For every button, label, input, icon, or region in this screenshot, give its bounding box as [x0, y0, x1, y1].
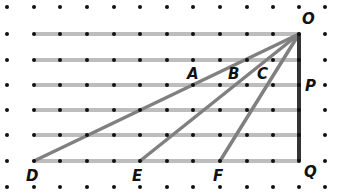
grid-dot — [245, 5, 249, 9]
label-o: O — [302, 10, 315, 28]
grid-dot — [5, 5, 9, 9]
grid-dot — [112, 5, 116, 9]
grid-dot — [271, 108, 275, 112]
grid-dot — [5, 32, 9, 36]
label-q: Q — [304, 163, 317, 181]
grid-dot — [271, 58, 275, 62]
grid-dot — [58, 32, 62, 36]
grid-dot — [138, 32, 142, 36]
grid-dot — [165, 58, 169, 62]
grid-dot — [32, 58, 36, 62]
grid-dot — [165, 159, 169, 163]
grid-dot — [112, 133, 116, 137]
grid-dot — [58, 108, 62, 112]
label-b: B — [228, 65, 239, 83]
grid-dot — [191, 32, 195, 36]
grid-dot — [165, 32, 169, 36]
grid-dot — [323, 32, 327, 36]
grid-dot — [85, 185, 89, 189]
grid-dot — [191, 58, 195, 62]
grid-dot — [218, 58, 222, 62]
grid-dot — [218, 185, 222, 189]
grid-dot — [32, 159, 36, 163]
grid-dot — [191, 5, 195, 9]
grid-dot — [245, 32, 249, 36]
grid-dot — [297, 133, 301, 137]
grid-dot — [218, 108, 222, 112]
grid-dot — [165, 83, 169, 87]
grid-dot — [191, 159, 195, 163]
grid-dot — [112, 185, 116, 189]
label-f: F — [213, 167, 224, 185]
grid-dot — [138, 159, 142, 163]
grid-dot — [323, 133, 327, 137]
grid-dot — [271, 185, 275, 189]
grid-dot — [323, 108, 327, 112]
grid-dot — [112, 83, 116, 87]
label-a: A — [186, 65, 199, 83]
grid-dot — [297, 185, 301, 189]
grid-dot — [245, 108, 249, 112]
grid-dot — [138, 133, 142, 137]
grid-dot — [58, 133, 62, 137]
grid-dot — [32, 133, 36, 137]
grid-dot — [5, 133, 9, 137]
grid-dot — [323, 5, 327, 9]
grid-dot — [32, 108, 36, 112]
geometry-diagram: O A B C P Q D E F — [0, 0, 337, 195]
grid-dot — [112, 32, 116, 36]
grid-dot — [323, 58, 327, 62]
grid-dot — [32, 83, 36, 87]
grid-dot — [165, 108, 169, 112]
grid-dot — [112, 58, 116, 62]
grid-dot — [138, 83, 142, 87]
grid-dot — [245, 159, 249, 163]
grid-dot — [138, 185, 142, 189]
grid-dot — [191, 185, 195, 189]
grid-dot — [323, 185, 327, 189]
grid-dot — [165, 133, 169, 137]
grid-dot — [297, 58, 301, 62]
grid-dot — [58, 58, 62, 62]
grid-dot — [5, 58, 9, 62]
grid-dot — [58, 159, 62, 163]
grid-dot — [85, 133, 89, 137]
grid-dot — [85, 159, 89, 163]
grid-dot — [271, 5, 275, 9]
grid-dot — [58, 5, 62, 9]
grid-dot — [85, 5, 89, 9]
grid-dot — [218, 159, 222, 163]
grid-dot — [297, 83, 301, 87]
grid-dot — [85, 83, 89, 87]
grid-dot — [5, 185, 9, 189]
grid-dot — [85, 108, 89, 112]
grid-dot — [297, 159, 301, 163]
grid-dot — [271, 159, 275, 163]
grid-dot — [245, 185, 249, 189]
grid-dot — [112, 108, 116, 112]
label-p: P — [305, 77, 316, 95]
grid-dot — [138, 5, 142, 9]
grid-dot — [138, 58, 142, 62]
grid-dot — [297, 108, 301, 112]
grid-dot — [323, 159, 327, 163]
grid-dot — [245, 133, 249, 137]
grid-dot — [271, 133, 275, 137]
grid-dot — [5, 159, 9, 163]
grid-dot — [191, 83, 195, 87]
grid-dot — [32, 5, 36, 9]
grid-dot — [165, 5, 169, 9]
grid-dot — [218, 133, 222, 137]
rays-from-o — [34, 34, 299, 161]
grid-dot — [218, 83, 222, 87]
label-d: D — [26, 167, 38, 185]
grid-dot — [271, 83, 275, 87]
grid-dot — [58, 83, 62, 87]
grid-dot — [323, 83, 327, 87]
grid-dot — [5, 83, 9, 87]
grid-dot — [165, 185, 169, 189]
grid-dot — [297, 32, 301, 36]
grid-dot — [191, 133, 195, 137]
grid-dot — [245, 83, 249, 87]
grid-dot — [191, 108, 195, 112]
